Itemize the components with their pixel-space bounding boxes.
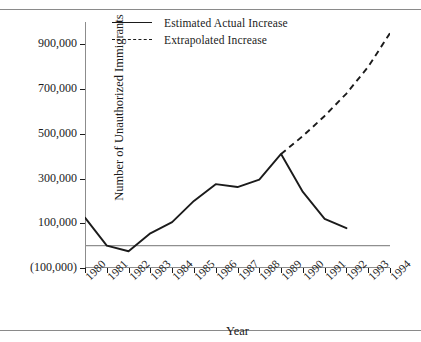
y-axis-title: Number of Unauthorized Immigrants (112, 0, 127, 223)
y-tick-mark (80, 44, 85, 45)
plot-area: Number of Unauthorized Immigrants (100,0… (85, 22, 390, 268)
y-tick-label: 500,000 (0, 126, 77, 141)
y-tick-label: 300,000 (0, 171, 77, 186)
top-rule (0, 9, 421, 10)
x-axis-title: Year (85, 324, 390, 339)
x-tick-label: 1994 (388, 258, 413, 283)
figure-container: Estimated Actual Increase Extrapolated I… (0, 0, 421, 342)
y-tick-label: 900,000 (0, 36, 77, 51)
y-tick-label: 700,000 (0, 81, 77, 96)
y-tick-mark (80, 223, 85, 224)
y-tick-label: 100,000 (0, 215, 77, 230)
plot-svg (85, 22, 390, 268)
series-line-extrapolated-increase (281, 33, 390, 154)
y-tick-mark (80, 89, 85, 90)
y-tick-mark (80, 179, 85, 180)
y-tick-mark (80, 134, 85, 135)
y-tick-label: (100,000) (0, 260, 77, 275)
